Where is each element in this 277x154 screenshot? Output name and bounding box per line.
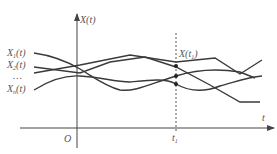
- point-x1-t1: [174, 64, 178, 68]
- x-axis-label: t: [262, 112, 265, 123]
- series-label-ellipsis: …: [13, 70, 22, 81]
- series-label-x1: X1(t): [6, 47, 26, 59]
- sample-paths: [34, 53, 262, 102]
- section-label: X(t1): [178, 48, 198, 60]
- origin-label: O: [64, 133, 71, 144]
- sample-path-x2: [34, 57, 260, 102]
- point-xn-t1: [174, 82, 178, 86]
- point-x2-t1: [174, 74, 178, 78]
- series-label-xn: Xn(t): [6, 83, 26, 95]
- sample-path-xn: [34, 76, 262, 90]
- series-labels: X1(t) X2(t) … Xn(t): [6, 47, 26, 95]
- y-axis-label: X(t): [79, 14, 96, 26]
- tick-label-t1: t1: [172, 132, 178, 144]
- random-process-diagram: X(t) t O t1 X(t1) X1(t) X2(t) … Xn(t): [0, 0, 277, 154]
